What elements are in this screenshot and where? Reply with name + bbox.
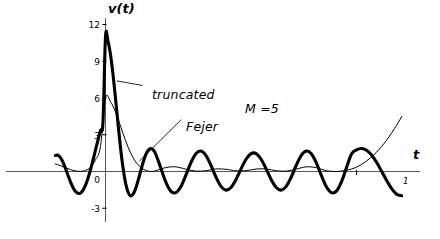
y-tick-label-3: 3: [84, 132, 100, 141]
y-tick-label-neg3: -3: [80, 205, 100, 214]
y-tick-label-0: 0: [84, 176, 100, 185]
x-tick-label-1: 1: [403, 177, 408, 186]
y-axis-title: v(t): [108, 2, 135, 15]
x-axis-title: t: [413, 148, 419, 161]
chart-plot: [0, 0, 440, 239]
plot-background: [0, 0, 440, 239]
figure-container: 12 9 6 3 0 -3 1 v(t) t truncated Fejer M…: [0, 0, 440, 239]
y-tick-label-12: 12: [84, 21, 100, 30]
y-tick-label-9: 9: [84, 58, 100, 67]
annotation-fejer: Fejer: [186, 121, 218, 134]
annotation-parameter-m: M =5: [245, 103, 279, 116]
annotation-truncated: truncated: [152, 89, 215, 102]
y-tick-label-6: 6: [84, 95, 100, 104]
